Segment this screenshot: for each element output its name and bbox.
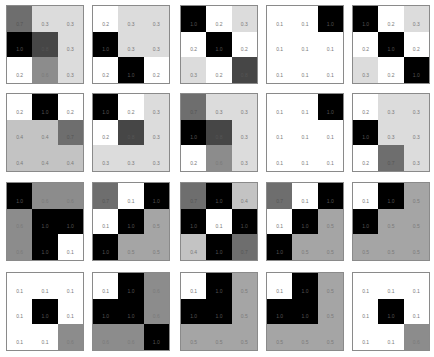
heatmap-cell: 0.6 [7,209,32,235]
heatmap-cell: 0.5 [232,273,257,299]
heatmap-cell: 1.0 [206,32,231,58]
heatmap-cell: 1.0 [118,299,143,325]
heatmap-cell: 0.1 [353,273,378,299]
heatmap-cell: 0.1 [58,234,83,260]
heatmap-tile: 0.11.00.51.00.50.50.50.50.5 [352,182,430,261]
heatmap-tile: 0.20.30.31.00.30.30.20.70.3 [352,93,430,172]
heatmap-cell: 1.0 [292,299,317,325]
heatmap-cell: 0.1 [353,324,378,350]
heatmap-tile: 0.10.11.00.10.10.10.10.10.1 [266,93,344,172]
heatmap-cell: 0.1 [292,183,317,209]
heatmap-cell: 1.0 [32,209,57,235]
heatmap-tile: 0.10.10.10.11.00.10.10.10.6 [352,272,430,351]
heatmap-cell: 0.1 [32,273,57,299]
heatmap-cell: 1.0 [318,183,343,209]
heatmap-cell: 0.5 [206,324,231,350]
heatmap-tile: 0.71.00.41.00.11.00.41.00.7 [180,182,258,261]
heatmap-cell: 0.1 [7,324,32,350]
heatmap-cell: 0.6 [58,183,83,209]
heatmap-cell: 0.3 [93,145,118,171]
heatmap-cell: 1.0 [267,234,292,260]
heatmap-cell: 0.3 [404,145,429,171]
heatmap-cell: 0.2 [181,32,206,58]
heatmap-cell: 0.5 [267,324,292,350]
heatmap-cell: 0.2 [353,145,378,171]
heatmap-cell: 1.0 [378,183,403,209]
heatmap-cell: 0.1 [318,32,343,58]
heatmap-cell: 0.7 [267,183,292,209]
heatmap-cell: 1.0 [7,183,32,209]
heatmap-cell: 0.3 [353,57,378,83]
heatmap-cell: 1.0 [378,32,403,58]
heatmap-cell: 0.5 [404,209,429,235]
heatmap-cell: 0.3 [206,94,231,120]
heatmap-cell: 0.2 [378,6,403,32]
heatmap-cell: 0.5 [118,234,143,260]
heatmap-cell: 0.3 [232,145,257,171]
heatmap-cell: 1.0 [93,94,118,120]
heatmap-tile: 1.00.20.30.21.00.20.30.20.8 [180,5,258,84]
heatmap-cell: 0.5 [232,299,257,325]
heatmap-cell: 0.8 [206,120,231,146]
heatmap-cell: 0.1 [267,273,292,299]
heatmap-cell: 0.2 [206,6,231,32]
heatmap-cell: 1.0 [144,324,169,350]
heatmap-cell: 1.0 [32,94,57,120]
heatmap-cell: 0.3 [181,57,206,83]
heatmap-cell: 0.6 [206,145,231,171]
heatmap-cell: 0.1 [32,324,57,350]
heatmap-cell: 0.3 [58,32,83,58]
heatmap-cell: 0.5 [144,209,169,235]
heatmap-cell: 0.3 [118,32,143,58]
heatmap-cell: 0.3 [144,120,169,146]
heatmap-cell: 1.0 [292,273,317,299]
heatmap-cell: 0.3 [58,57,83,83]
heatmap-cell: 0.4 [181,234,206,260]
heatmap-cell: 0.8 [232,57,257,83]
heatmap-cell: 0.1 [267,32,292,58]
heatmap-cell: 1.0 [206,273,231,299]
heatmap-cell: 0.4 [32,120,57,146]
heatmap-cell: 0.7 [7,6,32,32]
heatmap-cell: 1.0 [93,234,118,260]
heatmap-cell: 0.1 [353,183,378,209]
heatmap-cell: 0.6 [32,183,57,209]
heatmap-cell: 0.1 [58,273,83,299]
heatmap-cell: 0.1 [206,209,231,235]
heatmap-tile: 1.00.20.30.21.00.20.30.21.0 [352,5,430,84]
heatmap-cell: 0.7 [181,94,206,120]
heatmap-cell: 0.1 [292,6,317,32]
heatmap-cell: 0.7 [378,145,403,171]
heatmap-cell: 1.0 [118,209,143,235]
heatmap-cell: 0.6 [32,57,57,83]
heatmap-tile: 1.00.20.30.20.80.30.30.30.3 [92,93,170,172]
heatmap-cell: 1.0 [7,32,32,58]
heatmap-cell: 1.0 [206,299,231,325]
heatmap-cell: 0.5 [318,209,343,235]
heatmap-cell: 0.6 [58,324,83,350]
heatmap-cell: 0.1 [292,145,317,171]
heatmap-cell: 1.0 [93,32,118,58]
heatmap-cell: 0.1 [404,273,429,299]
heatmap-cell: 1.0 [378,299,403,325]
heatmap-cell: 1.0 [267,299,292,325]
heatmap-cell: 0.6 [404,324,429,350]
heatmap-cell: 0.1 [404,299,429,325]
heatmap-cell: 0.7 [232,234,257,260]
heatmap-cell: 0.2 [206,57,231,83]
heatmap-cell: 0.3 [32,6,57,32]
heatmap-cell: 0.1 [58,299,83,325]
heatmap-cell: 0.2 [181,145,206,171]
heatmap-cell: 0.1 [318,120,343,146]
heatmap-cell: 0.1 [267,209,292,235]
heatmap-cell: 0.1 [7,273,32,299]
heatmap-cell: 0.5 [404,183,429,209]
heatmap-cell: 1.0 [206,183,231,209]
heatmap-cell: 0.3 [378,120,403,146]
heatmap-cell: 0.2 [378,57,403,83]
heatmap-cell: 0.4 [7,120,32,146]
heatmap-cell: 0.2 [93,120,118,146]
heatmap-cell: 0.2 [353,32,378,58]
heatmap-cell: 0.5 [318,324,343,350]
heatmap-cell: 0.2 [58,94,83,120]
